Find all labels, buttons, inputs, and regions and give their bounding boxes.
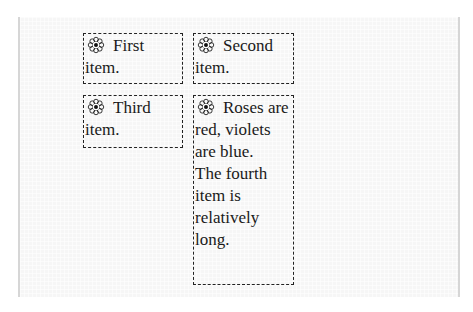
list-item-first: Firstitem. xyxy=(83,33,183,84)
flower-icon xyxy=(87,36,105,54)
flower-icon xyxy=(197,98,215,116)
item-text: item. xyxy=(195,58,229,77)
item-text: Third xyxy=(113,98,151,117)
flower-icon xyxy=(197,36,215,54)
list-item-third: Thirditem. xyxy=(83,95,183,148)
item-text: item. xyxy=(85,58,119,77)
flower-icon xyxy=(87,98,105,116)
list-item-fourth: Roses are red, violets are blue.The four… xyxy=(193,95,294,285)
item-text: Second xyxy=(223,36,273,55)
item-text: First xyxy=(113,36,144,55)
item-text: item. xyxy=(85,120,119,139)
list-item-second: Seconditem. xyxy=(193,33,294,84)
item-text: Roses xyxy=(223,98,264,117)
item-text: The fourth item is relatively long. xyxy=(195,164,267,249)
